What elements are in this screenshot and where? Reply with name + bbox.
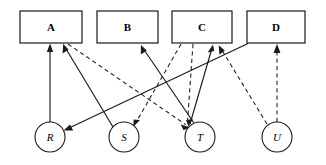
edge-A-to-T[interactable]: [68, 44, 190, 130]
edge-R-to-A[interactable]: [47, 44, 53, 123]
edge-line: [66, 48, 114, 127]
node-S-label: S: [121, 131, 127, 143]
node-C-label: C: [198, 21, 206, 33]
node-T[interactable]: T: [185, 122, 215, 152]
edge-D-to-R[interactable]: [64, 44, 248, 131]
edge-T-to-B[interactable]: [141, 45, 194, 123]
node-U-label: U: [273, 131, 282, 143]
edge-U-to-D[interactable]: [274, 44, 281, 122]
node-A[interactable]: A: [20, 11, 82, 43]
box-node-layer: A B C D: [20, 11, 305, 43]
edge-line: [68, 44, 248, 129]
node-R-label: R: [46, 131, 54, 143]
diagram-canvas: A B C D R S: [0, 0, 326, 165]
node-D[interactable]: D: [247, 11, 305, 43]
node-U[interactable]: U: [262, 122, 292, 152]
edge-line: [222, 50, 268, 125]
node-A-label: A: [47, 21, 55, 33]
edge-U-to-C[interactable]: [219, 45, 267, 124]
edge-C-to-S[interactable]: [133, 44, 181, 127]
node-B[interactable]: B: [97, 11, 158, 43]
arrowhead-at-R: [64, 125, 74, 131]
arrowhead-at-A: [47, 44, 53, 53]
node-S[interactable]: S: [109, 122, 139, 152]
edge-line: [144, 49, 195, 123]
arrowhead-at-C: [208, 45, 215, 53]
edge-layer: [47, 44, 281, 131]
edge-T-to-C[interactable]: [190, 45, 214, 124]
node-T-label: T: [197, 131, 204, 143]
edge-C-to-T[interactable]: [186, 44, 193, 126]
node-C[interactable]: C: [172, 11, 232, 43]
arrowhead-at-D: [274, 44, 281, 53]
node-D-label: D: [272, 21, 280, 33]
edge-line: [190, 50, 212, 125]
node-R[interactable]: R: [35, 122, 65, 152]
edge-line: [188, 44, 194, 122]
edge-line: [136, 44, 181, 123]
diagram-svg: A B C D R S: [0, 0, 326, 165]
node-B-label: B: [124, 21, 132, 33]
edge-S-to-A[interactable]: [63, 44, 113, 127]
